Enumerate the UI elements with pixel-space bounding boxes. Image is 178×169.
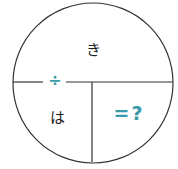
kihaji-circle-diagram xyxy=(0,0,178,169)
bottom-left-label-ha: は xyxy=(44,106,70,127)
result-unknown: =? xyxy=(104,102,154,124)
divide-operator: ÷ xyxy=(44,71,66,90)
top-label-ki: き xyxy=(80,38,106,59)
outer-circle xyxy=(13,3,173,163)
